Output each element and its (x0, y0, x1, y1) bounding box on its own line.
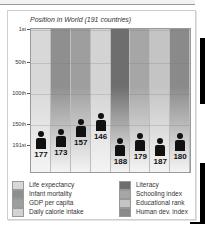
person-marker: 180 (174, 133, 186, 161)
y-tick-label: 1st (4, 26, 26, 32)
person-marker: 177 (35, 131, 47, 159)
person-icon (157, 138, 163, 144)
legend-item: Human dev. index (119, 208, 188, 217)
person-marker: 146 (95, 113, 107, 141)
rank-value: 187 (152, 157, 168, 166)
rank-value: 173 (53, 148, 69, 157)
person-icon (96, 120, 106, 131)
person-icon (137, 133, 143, 139)
person-icon (98, 113, 104, 119)
person-icon (117, 138, 123, 144)
legend-label: Daily calorie intake (29, 208, 84, 215)
person-icon (115, 145, 125, 156)
legend-swatch (12, 199, 24, 208)
legend-swatch (12, 208, 24, 217)
chart-title: Position in World (191 countries) (30, 16, 131, 23)
person-icon (36, 138, 46, 149)
bar-column (91, 29, 111, 172)
legend-item: Schooling index (119, 190, 182, 199)
rank-value: 179 (132, 152, 148, 161)
legend-item: Educational rank (119, 199, 184, 208)
legend-label: Human dev. index (136, 208, 188, 215)
right-edge-bar (200, 163, 205, 223)
legend-label: Infant mortality (29, 190, 72, 197)
rank-value: 177 (33, 150, 49, 159)
legend-swatch (119, 181, 131, 190)
person-icon (177, 133, 183, 139)
rank-value: 180 (172, 152, 188, 161)
legend-swatch (12, 181, 24, 190)
top-strip (0, 0, 195, 5)
right-edge-bar (200, 38, 205, 104)
person-marker: 173 (55, 129, 67, 157)
rank-value: 188 (112, 157, 128, 166)
person-icon (78, 119, 84, 125)
bar-column (71, 29, 91, 172)
legend-item: Infant mortality (12, 190, 72, 199)
person-marker: 157 (75, 119, 87, 147)
legend-label: GDP per capita (29, 199, 73, 206)
gridline (31, 94, 190, 95)
plot-area: 177173157146188179187180 (30, 28, 191, 173)
legend-item: GDP per capita (12, 199, 73, 208)
person-icon (175, 140, 185, 151)
person-icon (135, 140, 145, 151)
legend-swatch (119, 190, 131, 199)
gridline (31, 30, 190, 31)
y-tick-label: 150th (4, 121, 26, 127)
gridline (31, 63, 190, 64)
legend-swatch (119, 199, 131, 208)
legend-swatch (12, 190, 24, 199)
legend-item: Life expectancy (12, 181, 74, 190)
legend-item: Daily calorie intake (12, 208, 84, 217)
person-icon (58, 129, 64, 135)
person-marker: 188 (114, 138, 126, 166)
person-icon (76, 126, 86, 137)
person-icon (56, 136, 66, 147)
person-marker: 179 (134, 133, 146, 161)
person-icon (155, 145, 165, 156)
rank-value: 146 (93, 132, 109, 141)
legend-item: Literacy (119, 181, 159, 190)
y-tick-label: 100th (4, 90, 26, 96)
gridline (31, 125, 190, 126)
right-edge-line (190, 222, 205, 224)
legend-label: Schooling index (136, 190, 182, 197)
rank-value: 157 (73, 138, 89, 147)
legend-swatch (119, 208, 131, 217)
legend-label: Literacy (136, 181, 159, 188)
legend-label: Educational rank (136, 199, 184, 206)
person-marker: 187 (154, 138, 166, 166)
person-icon (38, 131, 44, 137)
y-tick-label: 191st (4, 142, 26, 148)
y-tick-label: 50th (4, 59, 26, 65)
legend-label: Life expectancy (29, 181, 74, 188)
